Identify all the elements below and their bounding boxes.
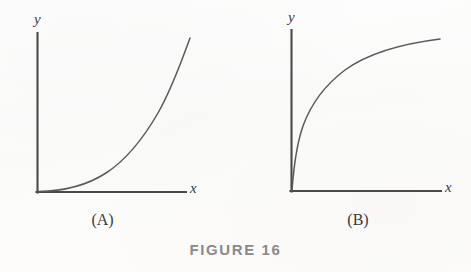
panel-a-y-axis-label: y <box>34 12 41 27</box>
panel-b-x-axis-label: x <box>445 180 452 195</box>
panel-b-plot <box>235 0 471 240</box>
panel-a-curve <box>38 38 190 192</box>
panel-b-curve <box>292 39 440 191</box>
figure-page: y x (A) y x (B) FIGURE 16 <box>0 0 471 272</box>
figure-caption: FIGURE 16 <box>0 242 471 257</box>
panel-b-caption: (B) <box>255 212 461 228</box>
panel-a: y x (A) <box>0 0 235 240</box>
panel-b-y-axis-label: y <box>288 10 295 25</box>
panel-a-x-axis-label: x <box>190 181 197 196</box>
panel-a-plot <box>0 0 235 240</box>
panel-b: y x (B) <box>235 0 471 240</box>
panel-a-caption: (A) <box>0 212 205 228</box>
